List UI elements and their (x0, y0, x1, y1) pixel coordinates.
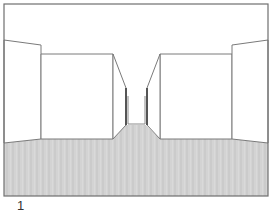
right-block-side (147, 54, 160, 139)
right-block-front (160, 54, 232, 139)
left-block-front (41, 54, 113, 139)
figure-label: 1 (17, 199, 24, 213)
left-block-side (113, 54, 126, 139)
right-near-wall (232, 40, 268, 143)
left-near-wall (4, 40, 41, 143)
corridor-illustration (0, 0, 272, 200)
